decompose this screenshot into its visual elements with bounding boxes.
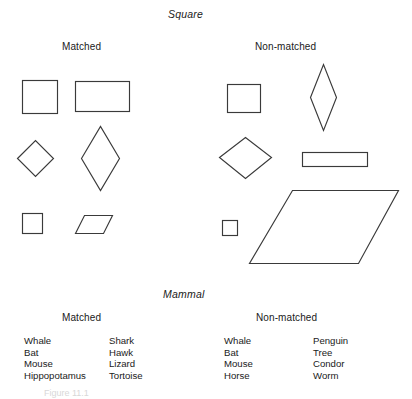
list-item: Tree <box>313 347 348 359</box>
list-item: Mouse <box>24 358 86 370</box>
column-header-mammal-matched: Matched <box>62 312 101 323</box>
list-item: Penguin <box>313 335 348 347</box>
list-item: Bat <box>24 347 86 359</box>
figure-illustration: Square Matched Non-matched Mammal <box>0 0 412 399</box>
list-item: Bat <box>224 347 253 359</box>
section-title-square: Square <box>168 8 203 20</box>
list-item: Horse <box>224 370 253 382</box>
shape-matched-diamond <box>18 141 54 177</box>
shape-non-matched-large-parallelogram <box>250 191 399 264</box>
column-header-mammal-non-matched: Non-matched <box>256 312 317 323</box>
column-header-square-non-matched: Non-matched <box>255 41 316 52</box>
shape-non-matched-small-square <box>223 221 238 236</box>
shape-matched-small-parallelogram <box>76 216 113 234</box>
shape-matched-small-square <box>23 214 43 234</box>
shape-non-matched-thin-wide-rectangle <box>303 153 368 167</box>
section-title-mammal: Mammal <box>163 288 204 300</box>
shape-non-matched-narrow-tall-diamond <box>311 65 337 131</box>
figure-caption: Figure 11.1 <box>44 388 89 398</box>
shape-non-matched-diamond <box>220 138 272 179</box>
word-list-mammal-non-matched-column-b: PenguinTreeCondorWorm <box>313 335 348 381</box>
list-item: Mouse <box>224 358 253 370</box>
shape-non-matched-square <box>228 85 261 113</box>
column-header-square-matched: Matched <box>62 41 101 52</box>
list-item: Whale <box>224 335 253 347</box>
shape-matched-tall-rhombus <box>82 127 120 191</box>
shape-matched-square <box>23 81 58 114</box>
word-list-mammal-matched-column-b: SharkHawkLizardTortoise <box>109 335 143 381</box>
word-list-mammal-non-matched-column-a: WhaleBatMouseHorse <box>224 335 253 381</box>
shape-matched-rectangle <box>76 82 130 112</box>
list-item: Whale <box>24 335 86 347</box>
list-item: Worm <box>313 370 348 382</box>
word-list-mammal-matched-column-a: WhaleBatMouseHippopotamus <box>24 335 86 381</box>
list-item: Condor <box>313 358 348 370</box>
list-item: Hawk <box>109 347 143 359</box>
list-item: Tortoise <box>109 370 143 382</box>
list-item: Hippopotamus <box>24 370 86 382</box>
list-item: Shark <box>109 335 143 347</box>
list-item: Lizard <box>109 358 143 370</box>
